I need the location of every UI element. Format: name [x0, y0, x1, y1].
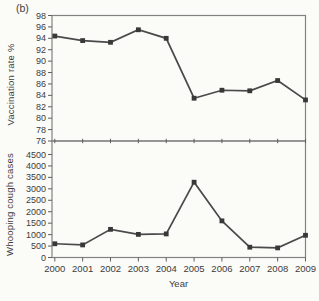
vaccination-rate-series-marker [80, 38, 85, 43]
bottom-y-tick-label: 1000 [26, 230, 46, 240]
x-tick-label: 2000 [44, 263, 65, 274]
bottom-y-tick-label: 2500 [26, 195, 46, 205]
x-tick-label: 2006 [211, 263, 232, 274]
x-tick-label: 2002 [100, 263, 121, 274]
whooping-cough-series-marker [164, 232, 169, 237]
x-tick-label: 2008 [267, 263, 288, 274]
top-y-tick-label: 96 [36, 22, 46, 32]
vaccination-rate-series-marker [220, 88, 225, 93]
bottom-y-tick-label: 1500 [26, 218, 46, 228]
top-panel-frame [52, 16, 306, 142]
top-y-tick-label: 82 [36, 102, 46, 112]
whooping-cough-series-marker [192, 180, 197, 185]
top-y-tick-label: 94 [36, 33, 46, 43]
whooping-cough-series-marker [220, 218, 225, 223]
vaccination-rate-series-marker [192, 96, 197, 101]
x-tick-label: 2004 [156, 263, 177, 274]
whooping-cough-series-marker [303, 233, 308, 238]
bottom-y-tick-label: 2000 [26, 207, 46, 217]
x-tick-label: 2009 [295, 263, 316, 274]
whooping-cough-series-marker [52, 241, 57, 246]
whooping-cough-series-marker [136, 232, 141, 237]
vaccination-rate-series-marker [275, 78, 280, 83]
vaccination-rate-series-marker [52, 34, 57, 39]
top-y-tick-label: 88 [36, 68, 46, 78]
vaccination-rate-series-line [55, 30, 306, 100]
x-axis-title: Year [52, 278, 305, 289]
top-y-tick-label: 84 [36, 90, 46, 100]
top-y-tick-label: 78 [36, 125, 46, 135]
whooping-cough-series-marker [108, 227, 113, 232]
x-tick-label: 2003 [128, 263, 149, 274]
x-tick-label: 2005 [184, 263, 205, 274]
vaccination-rate-series-marker [247, 88, 252, 93]
two-panel-line-chart-figure: (b) Vaccination rate % Whooping cough ca… [0, 0, 319, 301]
top-y-tick-label: 90 [36, 56, 46, 66]
bottom-y-tick-label: 500 [31, 241, 46, 251]
bottom-y-tick-label: 4000 [26, 161, 46, 171]
x-tick-label: 2001 [72, 263, 93, 274]
top-y-tick-label: 92 [36, 45, 46, 55]
vaccination-rate-series-marker [164, 36, 169, 41]
top-y-tick-label: 98 [36, 11, 46, 21]
top-y-tick-label: 86 [36, 79, 46, 89]
top-y-tick-label: 76 [36, 136, 46, 146]
bottom-y-tick-label: 4500 [26, 150, 46, 160]
vaccination-rate-series-marker [108, 40, 113, 45]
whooping-cough-series-marker [80, 243, 85, 248]
bottom-y-tick-label: 3000 [26, 184, 46, 194]
whooping-cough-series-marker [247, 245, 252, 250]
x-tick-label: 2007 [239, 263, 260, 274]
whooping-cough-series-line [55, 182, 306, 248]
vaccination-rate-series-marker [136, 27, 141, 32]
bottom-y-tick-label: 0 [41, 253, 46, 263]
top-y-tick-label: 80 [36, 113, 46, 123]
chart-canvas: 7678808284868890929496980500100015002000… [0, 0, 319, 301]
bottom-y-tick-label: 3500 [26, 172, 46, 182]
vaccination-rate-series-marker [303, 98, 308, 103]
whooping-cough-series-marker [275, 245, 280, 250]
